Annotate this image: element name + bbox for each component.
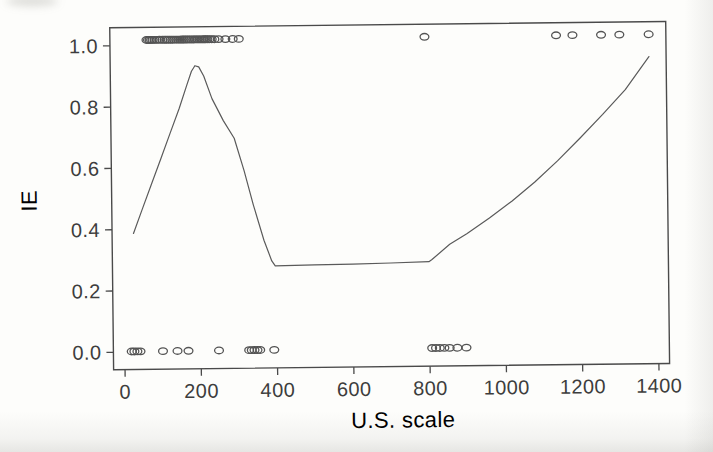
fit-curve <box>132 57 652 268</box>
x-tick-label: 600 <box>337 378 372 400</box>
y-tick-label: 0.2 <box>72 280 101 302</box>
x-tick-label: 1000 <box>483 376 529 399</box>
x-tick-label: 1200 <box>560 375 606 398</box>
data-point-circle <box>173 348 182 355</box>
x-tick-label: 1400 <box>636 374 682 397</box>
y-tick-label: 0.8 <box>69 96 98 118</box>
x-tick-label: 800 <box>413 377 448 399</box>
data-point-circle <box>215 347 224 354</box>
data-point-circle <box>159 348 168 355</box>
y-tick-label: 1.0 <box>69 35 98 57</box>
data-point-circle <box>420 33 429 40</box>
data-point-circle <box>597 31 606 38</box>
chart-container: 02004006008001000120014000.00.20.40.60.8… <box>0 0 713 452</box>
y-axis-title: IE <box>17 190 42 212</box>
data-point-circle <box>270 346 279 353</box>
plot-frame <box>110 21 670 369</box>
scatter-plot: 02004006008001000120014000.00.20.40.60.8… <box>0 0 713 452</box>
y-tick-label: 0.4 <box>71 219 100 241</box>
x-tick-label: 400 <box>260 379 295 401</box>
y-tick-label: 0.0 <box>72 341 101 363</box>
x-tick-label: 200 <box>184 380 219 402</box>
data-point-circle <box>184 347 193 354</box>
x-axis-title: U.S. scale <box>351 407 456 433</box>
figure-scan-page: 02004006008001000120014000.00.20.40.60.8… <box>0 0 713 452</box>
data-point-circle <box>462 344 471 351</box>
data-point-circle <box>234 36 243 43</box>
plot-area: 02004006008001000120014000.00.20.40.60.8… <box>69 21 683 403</box>
data-point-circle <box>568 32 577 39</box>
y-tick-label: 0.6 <box>70 158 99 180</box>
data-point-circle <box>644 31 653 38</box>
x-tick-label: 0 <box>119 381 131 403</box>
data-point-circle <box>552 32 561 39</box>
data-point-circle <box>615 31 624 38</box>
